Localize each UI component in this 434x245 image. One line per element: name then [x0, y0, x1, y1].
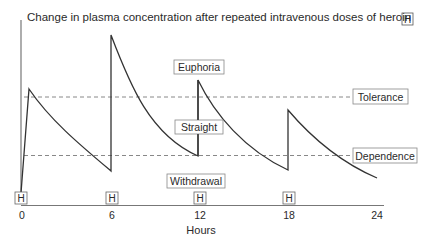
withdrawal-label-box: Withdrawal — [167, 174, 225, 188]
straight-label-box: Straight — [175, 120, 223, 134]
svg-text:H: H — [17, 193, 24, 204]
concentration-curve — [21, 35, 377, 193]
svg-text:H: H — [108, 193, 115, 204]
x-tick-6: 6 — [109, 209, 115, 221]
dose-marker-0h: H — [15, 192, 27, 204]
dependence-label-box: Dependence — [353, 148, 417, 163]
dose-marker-18h: H — [283, 192, 295, 204]
x-tick-18: 18 — [283, 209, 295, 221]
euphoria-label-box: Euphoria — [174, 60, 224, 74]
tolerance-label-box: Tolerance — [353, 89, 408, 104]
euphoria-label: Euphoria — [178, 61, 220, 73]
x-tick-0: 0 — [19, 209, 25, 221]
dose-marker-12h: H — [194, 192, 206, 204]
title-heroin-marker: H — [404, 14, 411, 25]
withdrawal-label: Withdrawal — [170, 175, 222, 187]
x-tick-24: 24 — [371, 209, 383, 221]
svg-text:H: H — [285, 193, 292, 204]
tolerance-label: Tolerance — [358, 91, 404, 103]
dose-marker-6h: H — [106, 192, 118, 204]
chart-title: Change in plasma concentration after rep… — [27, 11, 411, 23]
straight-label: Straight — [181, 121, 217, 133]
x-tick-12: 12 — [194, 209, 206, 221]
heroin-plasma-chart: Change in plasma concentration after rep… — [0, 0, 434, 245]
dependence-label: Dependence — [355, 150, 415, 162]
svg-text:H: H — [196, 193, 203, 204]
x-axis-label: Hours — [186, 224, 216, 236]
